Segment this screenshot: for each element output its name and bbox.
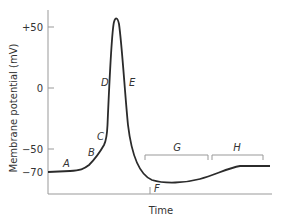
phase-label-a: A [62,158,70,169]
phase-label-b: B [88,147,95,158]
y-axis-title: Membrane potential (mV) [8,43,19,172]
tick-label-p50: +50 [22,22,43,33]
tick-label-m70: −70 [22,167,43,178]
phase-label-c: C [97,131,104,142]
phase-label-g: G [173,142,181,153]
action-potential-curve [48,18,270,182]
tick-label-m50: −50 [22,144,43,155]
bracket-g [145,155,208,160]
phase-label-d: D [101,77,109,88]
action-potential-chart: +50 0 −50 −70 Membrane potential (mV) Ti… [0,0,284,224]
phase-label-e: E [129,77,136,88]
phase-label-f: F [154,183,160,194]
phase-label-h: H [233,142,241,153]
tick-label-0: 0 [37,83,43,94]
bracket-h [212,155,263,160]
x-axis-title: Time [148,205,173,216]
